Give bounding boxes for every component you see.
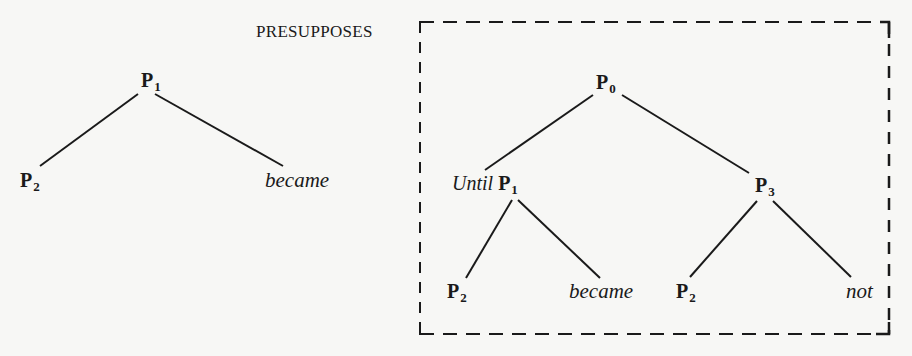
node-symbol: P [20,169,32,191]
node-symbol: P [596,71,608,93]
right-tree-p3: P3 [755,175,775,195]
node-subscript: 2 [460,290,467,305]
node-symbol: P [141,69,153,91]
right-tree-until-p1: UntilP1 [452,173,518,193]
node-symbol: P [676,280,688,302]
edge-p0-to-p3 [622,95,749,173]
edge-until-p1-to-p2 [466,200,512,278]
p3-child-not: not [846,281,873,302]
edge-left-p1-to-p2 [40,94,138,166]
left-tree-child-p2: P2 [20,170,40,190]
right-tree-root-p0: P0 [596,72,616,92]
presupposition-diagram: PRESUPPOSES P1 P2 became P0 UntilP1 P3 P… [0,0,912,356]
edge-p3-to-not [773,201,851,277]
p3-child-p2: P2 [676,281,696,301]
node-subscript: 1 [154,79,161,94]
presupposes-label: PRESUPPOSES [256,22,373,42]
node-symbol: P [498,172,510,194]
until-p1-child-became: became [569,281,633,302]
edge-p3-to-p2 [690,201,757,277]
edge-left-p1-to-became [155,94,283,166]
left-tree-root-p1: P1 [141,70,161,90]
until-word: Until [452,172,493,194]
edge-until-p1-to-became [518,200,600,278]
node-subscript: 0 [609,81,616,96]
until-p1-child-p2: P2 [447,281,467,301]
node-subscript: 2 [33,179,40,194]
node-subscript: 2 [689,290,696,305]
node-symbol: P [755,174,767,196]
edge-p0-to-until-p1 [485,95,593,170]
node-symbol: P [447,280,459,302]
left-tree-child-became: became [265,170,329,191]
node-subscript: 1 [511,182,518,197]
node-subscript: 3 [768,184,775,199]
